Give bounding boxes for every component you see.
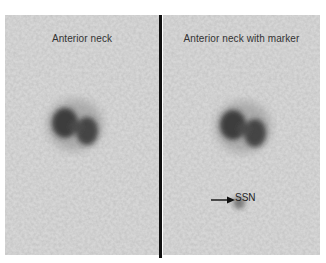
panel-title: Anterior neck [5, 33, 159, 44]
panel-anterior-neck-with-marker: Anterior neck with marker [163, 15, 320, 255]
panel-anterior-neck: Anterior neck [5, 15, 159, 255]
panel-title: Anterior neck with marker [163, 33, 320, 44]
ssn-marker-label: SSN [235, 192, 256, 203]
thyroid-scan-image [5, 15, 159, 255]
scintigraphy-figure: Anterior neck Anterior neck with marker … [0, 0, 326, 263]
panel-divider [159, 15, 162, 258]
arrow-right-icon [211, 196, 235, 204]
thyroid-scan-image-with-marker [163, 15, 320, 255]
